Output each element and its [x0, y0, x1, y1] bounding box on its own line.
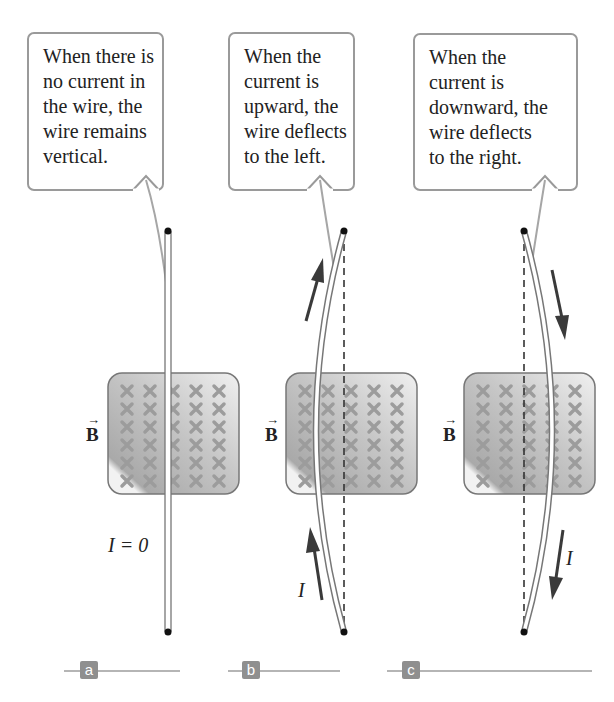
field-label-b: →B — [265, 424, 278, 446]
current-arrow-down-icon — [549, 530, 563, 600]
panel-label-c: c — [402, 661, 420, 679]
current-arrow-down-icon — [552, 270, 569, 340]
current-label-a: I = 0 — [108, 534, 148, 557]
current-arrow-up-icon — [306, 527, 322, 600]
current-label-b: I — [298, 579, 305, 602]
vector-arrow-icon: → — [444, 412, 457, 428]
panel-label-a: a — [80, 661, 98, 679]
current-arrow-up-icon — [306, 258, 324, 321]
current-label-c: I — [566, 547, 573, 570]
vector-arrow-icon: → — [87, 412, 100, 428]
vector-arrow-icon: → — [266, 412, 279, 428]
wire-diagram — [0, 0, 614, 702]
field-region-a — [108, 373, 239, 494]
wire-a — [165, 232, 171, 631]
field-label-a: →B — [86, 424, 99, 446]
panel-label-b: b — [242, 661, 260, 679]
field-label-c: →B — [443, 424, 456, 446]
